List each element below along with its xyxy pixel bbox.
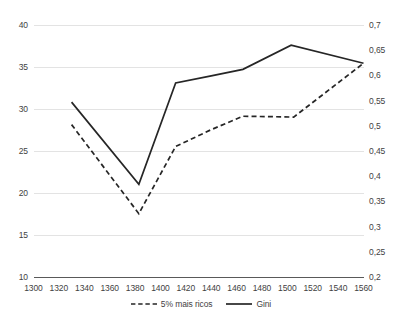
y-axis-right-tick-label: 0,35 — [369, 196, 399, 206]
legend-item-2[interactable]: Gini — [226, 299, 271, 309]
series-line-1 — [72, 63, 364, 213]
chart-legend: 5% mais ricosGini — [0, 299, 402, 309]
series-line-2 — [72, 45, 364, 184]
series-lines — [72, 45, 364, 214]
y-axis-right-tick-label: 0,3 — [369, 222, 399, 232]
y-axis-right-tick-label: 0,55 — [369, 96, 399, 106]
legend-swatch-solid — [226, 300, 252, 308]
y-axis-right-tick-label: 0,25 — [369, 247, 399, 257]
gridlines — [34, 26, 364, 236]
y-axis-left-tick-label: 10 — [2, 272, 28, 282]
legend-label: Gini — [256, 299, 271, 309]
y-axis-right-tick-label: 0,65 — [369, 45, 399, 55]
y-axis-left-tick-label: 25 — [2, 146, 28, 156]
y-axis-left-tick-label: 35 — [2, 62, 28, 72]
y-axis-right-tick-label: 0,45 — [369, 146, 399, 156]
y-axis-left-tick-label: 30 — [2, 104, 28, 114]
chart-plot-area — [0, 0, 402, 322]
y-axis-right-tick-label: 0,6 — [369, 70, 399, 80]
y-axis-right-tick-label: 0,7 — [369, 20, 399, 30]
y-axis-right-tick-label: 0,5 — [369, 121, 399, 131]
legend-swatch-dashed — [131, 300, 157, 308]
chart-container: 10152025303540 0,20,250,30,350,40,450,50… — [0, 0, 402, 322]
y-axis-left-tick-label: 15 — [2, 230, 28, 240]
y-axis-left-tick-label: 20 — [2, 188, 28, 198]
y-axis-right-tick-label: 0,2 — [369, 272, 399, 282]
legend-item-1[interactable]: 5% mais ricos — [131, 299, 213, 309]
y-axis-right-tick-label: 0,4 — [369, 171, 399, 181]
y-axis-left-tick-label: 40 — [2, 20, 28, 30]
x-axis-tick-label: 1560 — [347, 283, 381, 293]
legend-label: 5% mais ricos — [161, 299, 213, 309]
